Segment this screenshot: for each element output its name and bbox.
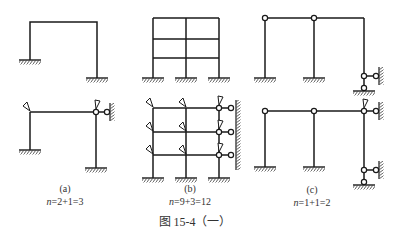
rotation-restraint-icon (146, 122, 153, 131)
panel-c-equation: n=1+1=2 (272, 197, 352, 208)
panel-b-equation: n=9+3=12 (150, 196, 230, 207)
panel-a-equation: n=2+1=3 (30, 196, 100, 207)
hinge-icon (361, 179, 366, 184)
frame-a-original (30, 22, 97, 78)
hinge-icon (104, 109, 109, 114)
fixed-support-icon (353, 91, 375, 96)
rotation-restraint-icon (218, 120, 223, 129)
panel-a-label: (a) (40, 183, 90, 194)
hinge-icon (228, 105, 233, 110)
rotation-restraint-icon (218, 96, 223, 105)
hinge-icon (216, 129, 221, 134)
fixed-support-icon (85, 168, 107, 173)
rotation-restraint-icon (179, 145, 186, 154)
hinge-icon (373, 167, 378, 172)
hinge-icon (228, 129, 233, 134)
wall-support-icon (379, 67, 384, 85)
hinge-icon (262, 15, 267, 20)
frame-a-basic-system (30, 112, 105, 168)
hinge-icon (361, 85, 366, 90)
wall-support-icon (236, 100, 241, 170)
hinge-icon (93, 109, 98, 114)
hinge-icon (311, 15, 316, 20)
fixed-support-icon (142, 178, 164, 183)
fixed-support-icon (353, 185, 375, 190)
frame-c-original (265, 18, 373, 85)
wall-support-icon (379, 161, 384, 179)
hinge-icon (262, 108, 267, 113)
fixed-support-icon (208, 78, 230, 83)
fixed-support-icon (208, 178, 230, 183)
panel-b-label: (b) (150, 183, 230, 194)
fixed-support-icon (142, 78, 164, 83)
rotation-restraint-icon (23, 102, 30, 111)
panel-c-label: (c) (287, 184, 337, 195)
fixed-support-icon (19, 60, 41, 65)
fixed-support-icon (175, 178, 197, 183)
rotation-restraint-icon (146, 145, 153, 154)
hinge-icon (216, 105, 221, 110)
rotation-restraint-icon (146, 98, 153, 107)
fixed-support-icon (254, 78, 276, 83)
wall-support-icon (379, 102, 384, 120)
wall-support-icon (110, 103, 115, 121)
hinge-icon (311, 108, 316, 113)
rotation-restraint-icon (179, 98, 186, 107)
fixed-support-icon (303, 167, 325, 172)
rotation-restraint-icon (218, 143, 223, 152)
fixed-support-icon (86, 78, 108, 83)
figure-title: 图 15-4（一） (140, 212, 250, 230)
hinge-icon (361, 73, 366, 78)
frame-b-original (153, 18, 219, 78)
hinge-icon (373, 108, 378, 113)
fixed-support-icon (175, 78, 197, 83)
rotation-restraint-icon (179, 122, 186, 131)
hinge-icon (216, 152, 221, 157)
hinge-icon (361, 108, 366, 113)
rotation-restraint-icon (95, 100, 100, 109)
rotation-restraint-icon (363, 99, 368, 108)
hinge-icon (373, 73, 378, 78)
hinge-icon (361, 167, 366, 172)
fixed-support-icon (19, 150, 41, 155)
fixed-support-icon (254, 167, 276, 172)
hinge-icon (228, 152, 233, 157)
fixed-support-icon (303, 78, 325, 83)
